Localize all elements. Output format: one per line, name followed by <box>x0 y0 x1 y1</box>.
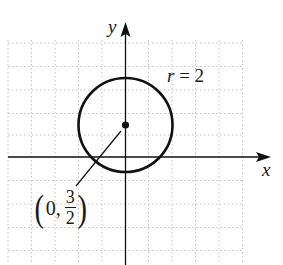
radius-label: r = 2 <box>167 66 204 85</box>
y-axis-label: y <box>108 17 116 36</box>
radius-symbol: r <box>167 65 174 86</box>
close-paren: ) <box>77 189 86 227</box>
fraction-numerator: 3 <box>65 188 76 208</box>
center-y-fraction: 3 2 <box>65 188 76 227</box>
x-axis-label: x <box>262 160 270 179</box>
radius-equals-value: = 2 <box>179 65 204 86</box>
center-coordinate-label: (0, 3 2 ) <box>33 188 88 227</box>
center-leader-line <box>76 131 121 186</box>
open-paren: ( <box>35 189 44 227</box>
diagram-canvas: y x r = 2 (0, 3 2 ) <box>0 0 283 265</box>
y-axis <box>121 22 131 265</box>
center-point <box>122 121 129 128</box>
x-axis <box>8 152 271 162</box>
fraction-denominator: 2 <box>66 208 75 227</box>
center-x-value: 0, <box>46 197 61 219</box>
